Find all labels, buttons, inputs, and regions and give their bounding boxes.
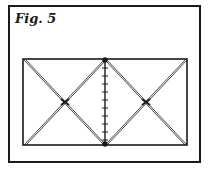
center-stitched-line	[102, 59, 108, 145]
diagram	[0, 0, 211, 174]
